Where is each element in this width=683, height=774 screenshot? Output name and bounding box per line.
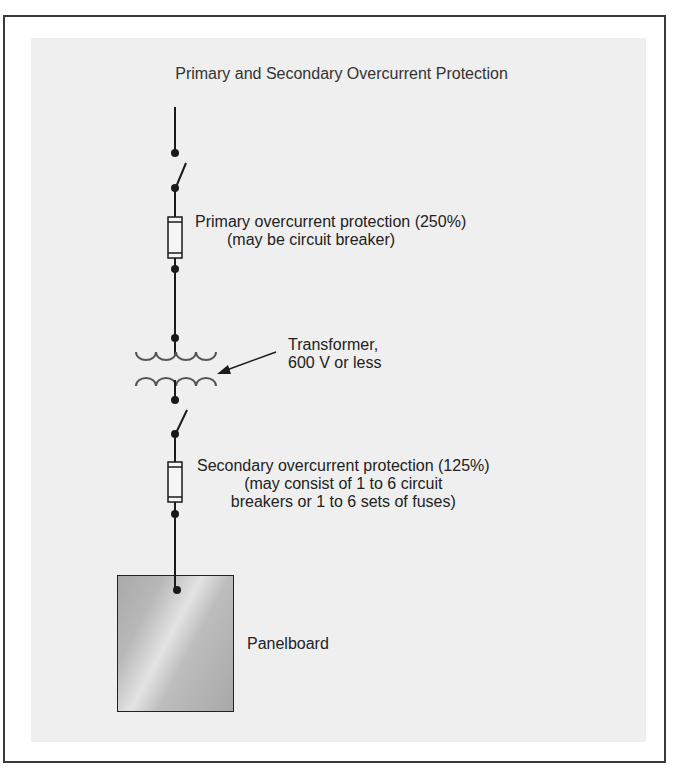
transformer-label: Transformer, 600 V or less [288,336,381,372]
secondary-switch-icon [176,410,187,433]
transformer-line2: 600 V or less [288,354,381,372]
transformer-line1: Transformer, [288,336,381,354]
terminal-dot-icon [171,149,179,157]
terminal-dot-icon [171,510,179,518]
secondary-protection-line2: (may consist of 1 to 6 circuit [197,475,490,493]
terminal-dot-icon [171,396,179,404]
secondary-protection-label: Secondary overcurrent protection (125%) … [197,457,490,511]
terminal-dot-icon [171,265,179,273]
primary-protection-line1: Primary overcurrent protection (250%) [195,213,466,231]
secondary-fuse-icon [168,462,182,502]
secondary-protection-line3: breakers or 1 to 6 sets of fuses) [197,493,490,511]
transformer-pointer-arrow-icon [217,352,276,374]
primary-protection-line2: (may be circuit breaker) [195,231,466,249]
primary-fuse-icon [168,217,182,258]
secondary-protection-line1: Secondary overcurrent protection (125%) [197,457,490,475]
primary-protection-label: Primary overcurrent protection (250%) (m… [195,213,466,249]
primary-switch-icon [176,163,186,187]
circuit-diagram [0,0,683,774]
panelboard-icon [117,575,234,712]
panelboard-label: Panelboard [247,635,329,653]
